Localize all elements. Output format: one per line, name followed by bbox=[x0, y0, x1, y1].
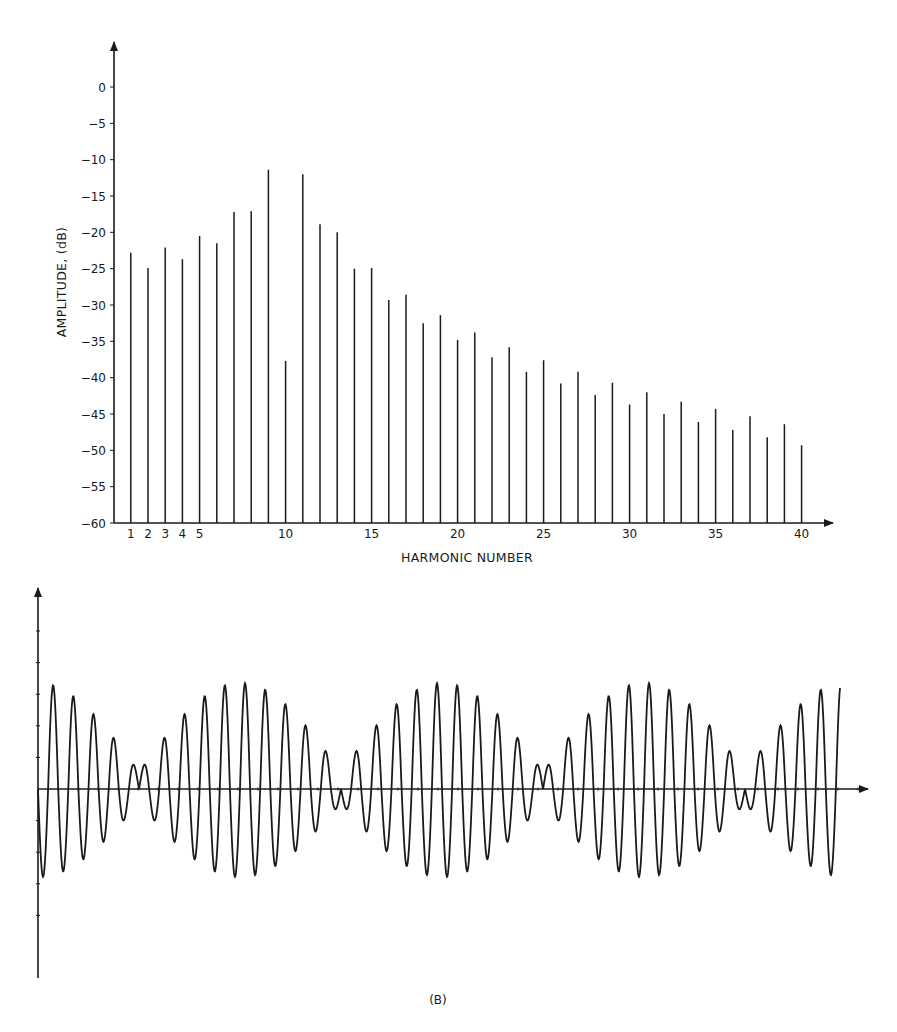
y-tick-label: −60 bbox=[81, 517, 106, 531]
x-tick-label: 3 bbox=[161, 527, 169, 541]
figure: 0−5−10−15−20−25−30−35−40−45−50−55−60 123… bbox=[0, 0, 897, 1032]
x-tick-label: 1 bbox=[127, 527, 135, 541]
x-tick-label: 2 bbox=[144, 527, 152, 541]
y-tick-label: 0 bbox=[98, 81, 106, 95]
x-tick-label: 25 bbox=[536, 527, 551, 541]
y-tick-label: −50 bbox=[81, 444, 106, 458]
spectral-lines bbox=[131, 170, 802, 523]
x-tick-label: 10 bbox=[278, 527, 293, 541]
y-tick-label: −30 bbox=[81, 299, 106, 313]
y-tick-label: −55 bbox=[81, 480, 106, 494]
panel-label-b: (B) bbox=[429, 993, 447, 1007]
x-tick-label: 20 bbox=[450, 527, 465, 541]
x-tick-label: 30 bbox=[622, 527, 637, 541]
y-tick-label: −10 bbox=[81, 153, 106, 167]
x-ticks: 1234510152025303540 bbox=[127, 527, 809, 541]
x-tick-label: 5 bbox=[196, 527, 204, 541]
y-tick-label: −45 bbox=[81, 408, 106, 422]
spectrum-chart: 0−5−10−15−20−25−30−35−40−45−50−55−60 123… bbox=[54, 42, 833, 565]
y-axis-title: AMPLITUDE, (dB) bbox=[54, 227, 69, 338]
x-tick-label: 35 bbox=[708, 527, 723, 541]
y-tick-label: −15 bbox=[81, 190, 106, 204]
x-tick-label: 4 bbox=[179, 527, 187, 541]
waveform-chart: (B) bbox=[36, 588, 868, 1007]
y-ticks: 0−5−10−15−20−25−30−35−40−45−50−55−60 bbox=[81, 81, 114, 531]
x-tick-label: 40 bbox=[794, 527, 809, 541]
figure-canvas: 0−5−10−15−20−25−30−35−40−45−50−55−60 123… bbox=[0, 0, 897, 1032]
y-tick-label: −20 bbox=[81, 226, 106, 240]
y-tick-label: −25 bbox=[81, 262, 106, 276]
x-tick-label: 15 bbox=[364, 527, 379, 541]
y-tick-label: −5 bbox=[88, 117, 106, 131]
waveform-x-ticks bbox=[58, 788, 858, 791]
y-tick-label: −35 bbox=[81, 335, 106, 349]
y-tick-label: −40 bbox=[81, 371, 106, 385]
waveform-trace bbox=[38, 683, 840, 876]
x-axis-title: HARMONIC NUMBER bbox=[401, 550, 533, 565]
